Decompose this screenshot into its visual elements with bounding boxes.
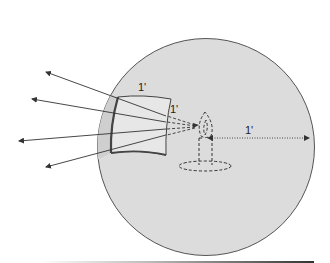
surface-patch xyxy=(111,96,171,155)
diagram-canvas: 1' 1' 1' xyxy=(0,0,330,263)
label-patch-height: 1' xyxy=(170,103,178,115)
label-radius: 1' xyxy=(245,124,253,136)
label-patch-width: 1' xyxy=(138,81,146,93)
